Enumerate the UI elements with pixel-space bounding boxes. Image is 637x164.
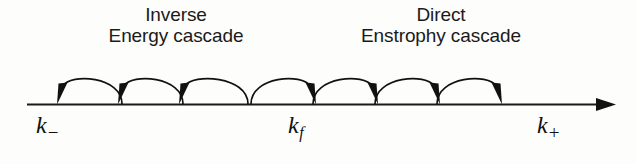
inverse-cascade-label-line1: Inverse <box>45 4 307 25</box>
cascade-arrowhead-right-4-icon <box>492 83 503 105</box>
inverse-energy-cascade-arrowheads <box>57 83 190 105</box>
direct-cascade-label-line1: Direct <box>320 4 562 25</box>
cascade-arrowhead-right-3-icon <box>430 83 441 105</box>
k-f-subscript: f <box>299 124 304 141</box>
axis-tick-label-k-minus: k− <box>36 112 58 144</box>
direct-cascade-label-line2: Enstrophy cascade <box>320 25 562 46</box>
cascade-arc-left-3 <box>185 79 248 104</box>
cascade-arrowhead-left-2-icon <box>118 83 129 105</box>
cascade-arrowhead-right-2-icon <box>368 83 379 105</box>
direct-enstrophy-cascade-arrowheads <box>306 83 503 105</box>
axis-arrowhead-icon <box>596 98 616 111</box>
k-plus-symbol: k <box>537 112 548 138</box>
inverse-energy-cascade-label: Inverse Energy cascade <box>45 4 307 46</box>
inverse-energy-cascade-arcs <box>63 79 248 104</box>
direct-enstrophy-cascade-label: Direct Enstrophy cascade <box>320 4 562 46</box>
k-plus-subscript: + <box>548 122 560 143</box>
cascade-arc-right-1 <box>251 79 310 104</box>
axis-tick-label-k-f: kf <box>288 112 304 142</box>
cascade-arc-left-1 <box>63 79 122 104</box>
k-minus-symbol: k <box>36 112 47 138</box>
axis-tick-label-k-plus: k+ <box>537 112 559 144</box>
cascade-arrowhead-left-1-icon <box>57 83 68 105</box>
cascade-diagram-figure: Inverse Energy cascade Direct Enstrophy … <box>0 0 637 164</box>
cascade-arrowhead-left-3-icon <box>179 83 190 105</box>
cascade-arc-right-2 <box>313 79 372 104</box>
cascade-arc-right-4 <box>437 79 496 104</box>
k-minus-subscript: − <box>47 122 59 143</box>
cascade-arc-right-3 <box>375 79 434 104</box>
cascade-arc-left-2 <box>124 79 183 104</box>
axis-group <box>27 98 616 111</box>
k-f-symbol: k <box>288 112 299 138</box>
cascade-arrowhead-right-1-icon <box>306 83 317 105</box>
inverse-cascade-label-line2: Energy cascade <box>45 25 307 46</box>
